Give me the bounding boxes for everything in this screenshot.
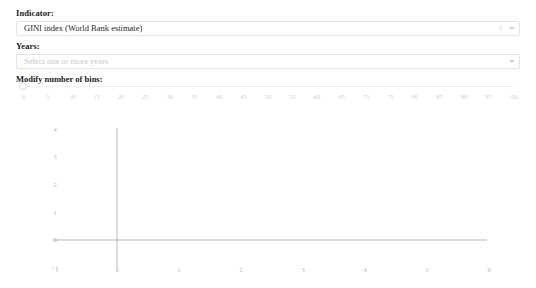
x-axis-ticks: −10123456 <box>52 266 492 273</box>
slider-tick-90: 90 <box>461 92 468 101</box>
years-label: Years: <box>16 41 520 52</box>
years-select-icons <box>509 55 515 68</box>
indicator-select-icons: × <box>497 22 515 35</box>
chevron-down-icon[interactable] <box>509 60 515 63</box>
slider-tick-20: 20 <box>118 92 125 101</box>
y-tick-label-1: 1 <box>53 209 56 216</box>
slider-tick-100: 100 <box>508 92 518 101</box>
slider-tick-35: 35 <box>191 92 198 101</box>
slider-tick-10: 10 <box>69 92 76 101</box>
x-tick-label-5: 5 <box>425 266 428 273</box>
slider-tick-60: 60 <box>314 92 321 101</box>
slider-tick-5: 5 <box>46 92 49 101</box>
histogram-chart: −101234 −10123456 <box>0 108 536 288</box>
slider-tick-labels: 0510152025303540455055606570758085909510… <box>16 92 520 103</box>
y-tick-label-3: 3 <box>53 153 56 160</box>
slider-handle[interactable] <box>19 82 27 90</box>
slider-tick-40: 40 <box>216 92 223 101</box>
x-tick-label-6: 6 <box>487 266 491 273</box>
slider-tick-95: 95 <box>485 92 492 101</box>
controls-panel: Indicator: GINI index (World Bank estima… <box>16 8 520 85</box>
years-placeholder: Select one or more years <box>17 55 108 68</box>
slider-tick-80: 80 <box>412 92 419 101</box>
slider-tick-0: 0 <box>21 92 24 101</box>
y-tick-label-2: 2 <box>53 181 56 188</box>
indicator-select[interactable]: GINI index (World Bank estimate) × <box>16 21 520 36</box>
clear-icon[interactable]: × <box>497 25 504 33</box>
slider-tick-55: 55 <box>289 92 296 101</box>
chevron-down-icon[interactable] <box>509 27 515 30</box>
slider-track[interactable] <box>23 86 513 87</box>
slider-tick-25: 25 <box>142 92 149 101</box>
x-tick-label-4: 4 <box>363 266 367 273</box>
slider-tick-70: 70 <box>363 92 370 101</box>
slider-tick-65: 65 <box>338 92 345 101</box>
indicator-label: Indicator: <box>16 8 520 19</box>
slider-tick-30: 30 <box>167 92 174 101</box>
slider-tick-85: 85 <box>436 92 443 101</box>
years-select[interactable]: Select one or more years <box>16 54 520 69</box>
x-tick-label-1: 1 <box>177 266 180 273</box>
x-tick-label--1: −1 <box>52 266 59 273</box>
slider-tick-15: 15 <box>93 92 100 101</box>
x-tick-label-3: 3 <box>301 266 304 273</box>
y-tick-label-4: 4 <box>53 126 57 133</box>
slider-tick-75: 75 <box>387 92 394 101</box>
slider-tick-50: 50 <box>265 92 272 101</box>
chart-svg: −101234 −10123456 <box>0 108 536 288</box>
x-tick-label-2: 2 <box>239 266 242 273</box>
slider-tick-45: 45 <box>240 92 247 101</box>
y-axis-ticks: −101234 <box>52 126 59 271</box>
indicator-selected-value: GINI index (World Bank estimate) <box>17 22 142 35</box>
bins-slider[interactable]: 0510152025303540455055606570758085909510… <box>16 82 520 104</box>
